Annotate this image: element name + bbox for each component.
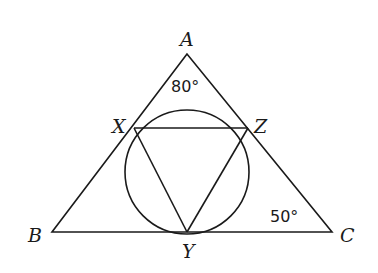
segment-yz: [187, 128, 248, 232]
label-z: Z: [253, 115, 268, 137]
label-c: C: [340, 224, 355, 246]
geometry-diagram: A B C X Y Z 80° 50°: [0, 0, 378, 273]
label-a: A: [178, 28, 194, 50]
label-y: Y: [182, 240, 197, 262]
segment-xy: [134, 128, 187, 232]
label-x: X: [110, 115, 127, 137]
label-b: B: [27, 224, 42, 246]
angle-c-label: 50°: [270, 207, 298, 226]
angle-a-label: 80°: [171, 77, 199, 96]
